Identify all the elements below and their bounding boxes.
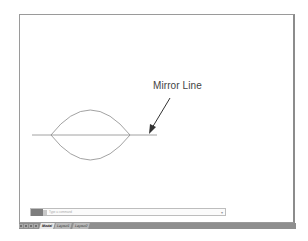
upper-arc [51, 110, 130, 135]
mirror-line-label: Mirror Line [153, 80, 202, 91]
chevron-down-icon[interactable]: ▾ [221, 210, 223, 215]
command-prompt-icon [43, 210, 47, 215]
layout-tab-bar: Model Layout1 Layout2 [19, 223, 296, 229]
tab-model[interactable]: Model [39, 223, 55, 229]
arrow-head-icon [149, 124, 156, 134]
next-tab-icon[interactable] [29, 224, 33, 228]
tab-navigation [19, 224, 38, 228]
prev-tab-icon[interactable] [24, 224, 28, 228]
command-line[interactable]: Type a command ▾ [30, 208, 226, 216]
leader-line [152, 98, 170, 128]
first-tab-icon[interactable] [19, 224, 23, 228]
tab-layout2[interactable]: Layout2 [72, 223, 90, 229]
tab-layout1[interactable]: Layout1 [54, 223, 72, 229]
drawing-canvas[interactable] [0, 0, 308, 241]
command-input[interactable]: Type a command [49, 209, 72, 216]
command-close-button[interactable] [31, 209, 43, 216]
lower-arc [51, 135, 130, 160]
last-tab-icon[interactable] [34, 224, 38, 228]
